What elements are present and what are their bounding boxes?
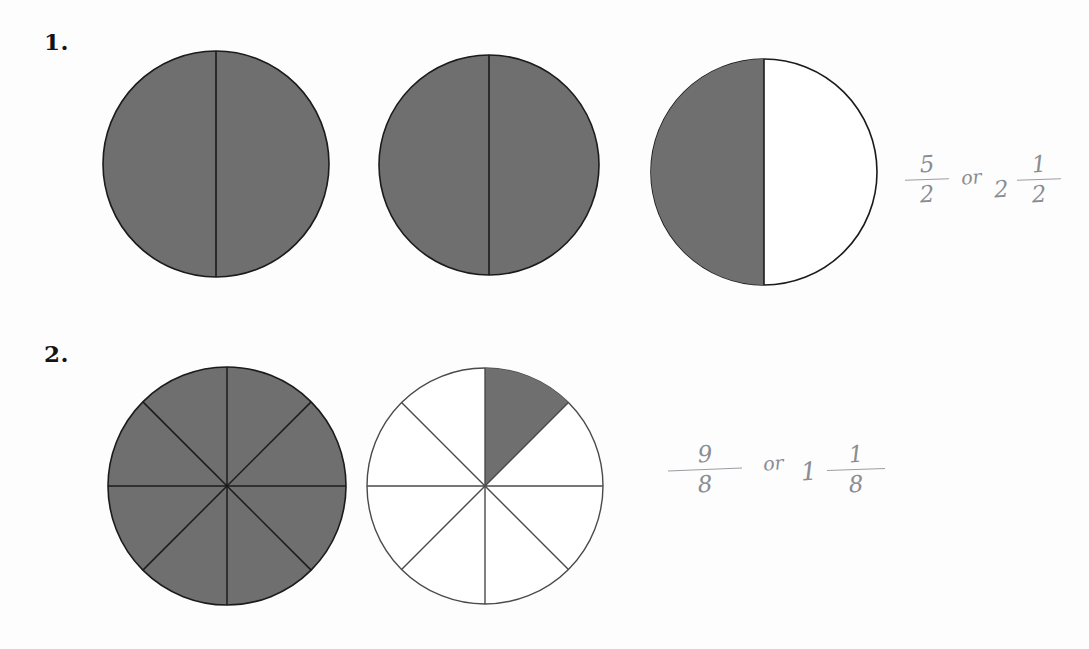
worksheet-page: 1. 5 2 or 2 1 <box>0 0 1089 649</box>
fraction-circle-2a-svg <box>105 364 349 608</box>
answer-2-mixed-fraction: 1 8 <box>827 442 885 496</box>
answer-2-connector: or <box>762 451 784 475</box>
fraction-circle-1c-svg <box>648 56 880 288</box>
answer-1-mixed-denominator: 2 <box>1017 181 1063 208</box>
fraction-circle-1c <box>648 56 880 288</box>
answer-1-improper-fraction: 5 2 <box>905 152 949 206</box>
problem-number-1: 1. <box>44 30 69 53</box>
answer-1-mixed-fraction: 1 2 <box>1017 152 1061 206</box>
handwritten-answer-2: 9 8 or 1 1 8 <box>668 442 885 496</box>
fraction-circle-2b <box>364 365 606 607</box>
answer-1-denominator: 2 <box>904 181 950 208</box>
answer-2-improper-fraction: 9 8 <box>668 442 742 496</box>
fraction-circle-1a <box>100 48 332 280</box>
fraction-circle-2b-svg <box>364 365 606 607</box>
answer-1-connector: or <box>960 165 982 189</box>
answer-1-mixed-numerator: 1 <box>1017 150 1063 177</box>
fraction-circle-1b <box>376 52 602 278</box>
problem-number-2: 2. <box>44 342 69 365</box>
answer-2-whole-number: 1 <box>800 456 818 486</box>
answer-1-numerator: 5 <box>904 150 950 177</box>
answer-2-denominator: 8 <box>667 470 743 499</box>
answer-2-mixed-numerator: 1 <box>826 440 886 468</box>
answer-2-numerator: 9 <box>667 439 743 468</box>
fraction-circle-2a <box>105 364 349 608</box>
fraction-circle-1a-svg <box>100 48 332 280</box>
answer-2-mixed-denominator: 8 <box>826 470 886 498</box>
answer-1-whole-number: 2 <box>993 176 1009 203</box>
fraction-circle-1b-svg <box>376 52 602 278</box>
handwritten-answer-1: 5 2 or 2 1 2 <box>905 152 1061 206</box>
shaded-half-left <box>651 59 764 285</box>
